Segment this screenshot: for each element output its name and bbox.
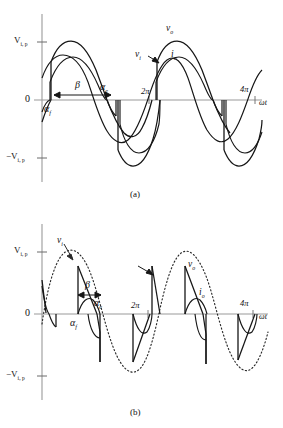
panel-a-plot xyxy=(0,0,283,214)
vo-label-b: vo xyxy=(188,260,195,272)
zero-label-b: 0 xyxy=(25,308,30,318)
curve-vo-a-seg1 xyxy=(51,41,107,100)
vo-label-a: vo xyxy=(166,24,173,36)
alpha-f-label-b: αf xyxy=(70,318,77,330)
panel-b-input-sine xyxy=(42,250,268,372)
vi-label-b: vi xyxy=(57,236,63,248)
curve-vo-a-seg3 xyxy=(124,100,152,137)
y-axis-bottom-label-b: −Vi, p xyxy=(6,370,25,381)
curve-vo-b-fall2b xyxy=(152,266,160,314)
panel-a-caption: (a) xyxy=(130,190,140,199)
panel-b-caption: (b) xyxy=(130,408,141,417)
curve-io-b-hump3 xyxy=(185,299,207,314)
x-axis-label-b: ωt xyxy=(259,313,267,321)
curve-io-a-seg5 xyxy=(156,57,213,100)
io-label-a: io xyxy=(171,50,177,62)
panel-b: Vi, p −Vi, p 0 2π 4π ωt vi αf αe β vo io… xyxy=(0,214,283,428)
zero-label-a: 0 xyxy=(25,94,30,104)
vi-pointer-arrow-b xyxy=(138,266,153,275)
curve-vo-a-seg7 xyxy=(224,120,262,166)
beta-label-b: β xyxy=(85,280,90,290)
curve-io-a-seg2 xyxy=(107,100,116,116)
panel-a-waveforms xyxy=(42,41,262,166)
x-axis-label-a: ωt xyxy=(259,99,267,107)
curve-vi-b xyxy=(42,250,268,372)
alpha-e-label-a: αe xyxy=(100,82,108,94)
curve-io-a-seg8 xyxy=(226,124,262,153)
curve-vi-a xyxy=(42,55,262,143)
waveform-figure: Vi, p −Vi, p 0 2π 4π ωt αf αe β vi vo io… xyxy=(0,0,283,428)
curve-io-a-seg4 xyxy=(120,100,160,153)
panel-a: Vi, p −Vi, p 0 2π 4π ωt αf αe β vi vo io… xyxy=(0,0,283,214)
io-label-b: io xyxy=(199,288,205,300)
x-tick-4pi-a: 4π xyxy=(240,85,249,94)
beta-label-a: β xyxy=(75,80,80,90)
y-axis-top-label-a: Vi, p xyxy=(14,36,28,47)
x-tick-4pi-b: 4π xyxy=(240,299,249,308)
x-tick-2pi-a: 2π xyxy=(141,87,150,96)
vi-label-a: vi xyxy=(135,50,141,62)
curve-io-b-p0n xyxy=(49,314,56,327)
panel-b-plot xyxy=(0,214,283,428)
alpha-e-label-b: αe xyxy=(94,298,102,310)
x-tick-2pi-b: 2π xyxy=(131,301,140,310)
y-axis-bottom-label-a: −Vi, p xyxy=(6,152,25,163)
curve-io-a-seg6 xyxy=(213,100,222,116)
alpha-f-label-a: αf xyxy=(44,104,51,116)
y-axis-top-label-b: Vi, p xyxy=(14,246,28,257)
